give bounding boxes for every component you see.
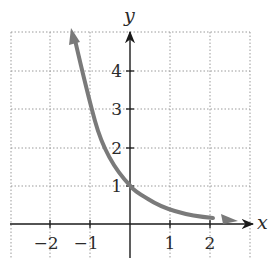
- y-tick-label: 1: [111, 176, 122, 196]
- x-axis-label: x: [257, 211, 268, 233]
- x-tick-label: 2: [205, 233, 216, 253]
- y-tick-label: 2: [111, 138, 122, 158]
- y-axis-label: y: [123, 4, 135, 26]
- curve-arrow-up-icon: [69, 28, 80, 45]
- x-tick-label: −2: [33, 233, 58, 253]
- exponential-curve: [75, 40, 213, 218]
- y-tick-label: 4: [111, 61, 122, 81]
- x-tick-label: −1: [73, 233, 98, 253]
- exponential-graph: −2 −1 1 2 1 2 3 4 x y: [0, 0, 269, 258]
- y-tick-label: 3: [111, 99, 122, 119]
- curve-arrow-right-icon: [221, 214, 238, 224]
- x-tick-label: 1: [165, 233, 176, 253]
